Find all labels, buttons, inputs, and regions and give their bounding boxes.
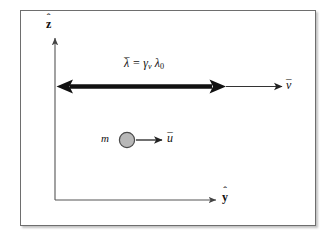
lambda-zero-subscript: 0 — [160, 62, 164, 71]
v-bar-accent: – — [286, 73, 291, 84]
wavelength-equation: – λ =γvλ0 — [124, 57, 164, 71]
mass-label: m — [101, 133, 109, 144]
lambda-bar-accent: – — [124, 51, 129, 62]
figure-root: ˆ z ˆ y – λ =γvλ0 – v m – u — [0, 0, 336, 241]
u-bar-accent: – — [167, 126, 173, 137]
equation-equals: = — [132, 56, 140, 70]
wavelength-double-arrow — [57, 80, 227, 94]
y-hat-accent: ˆ — [222, 185, 228, 196]
diagram-canvas — [0, 0, 336, 241]
particle-velocity-label: – u — [167, 132, 173, 144]
velocity-label: – v — [286, 79, 291, 91]
particle-circle — [119, 132, 134, 147]
gamma-subscript: v — [148, 62, 152, 71]
z-hat-accent: ˆ — [46, 12, 51, 23]
z-axis-label: ˆ z — [46, 18, 51, 30]
y-axis-label: ˆ y — [222, 191, 228, 203]
